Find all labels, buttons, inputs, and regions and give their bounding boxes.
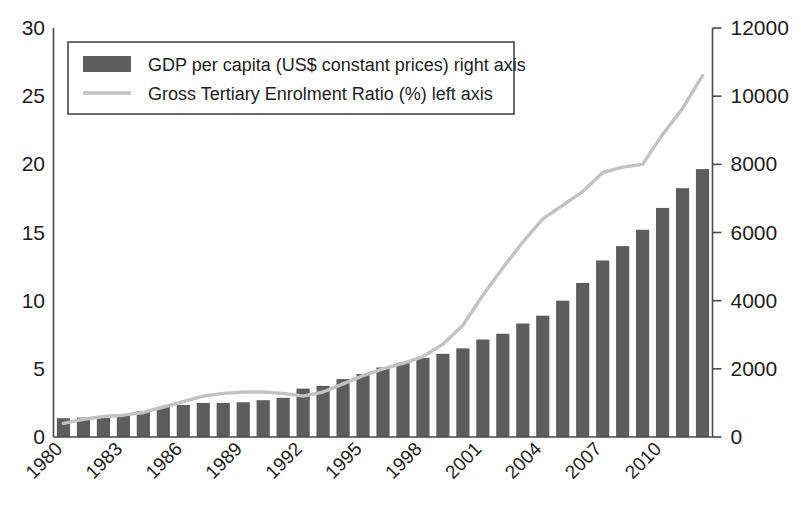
- bar-1984: [137, 411, 150, 437]
- y-right-tick-label-2000: 2000: [731, 357, 778, 380]
- bar-2005: [556, 301, 569, 437]
- bar-2006: [576, 283, 589, 437]
- legend-item-label-enrolment: Gross Tertiary Enrolment Ratio (%) left …: [148, 84, 493, 104]
- y-left-tick-label-10: 10: [22, 289, 45, 312]
- bar-1998: [416, 358, 429, 437]
- bar-1990: [257, 400, 270, 437]
- bar-1991: [277, 398, 290, 437]
- bar-2011: [676, 188, 689, 437]
- bar-1986: [177, 405, 190, 437]
- y-left-tick-label-15: 15: [22, 221, 45, 244]
- bar-2012: [696, 169, 709, 437]
- bar-1988: [217, 403, 230, 437]
- y-right-tick-label-4000: 4000: [731, 289, 778, 312]
- legend-bar-swatch-icon: [83, 56, 131, 72]
- chart-legend: GDP per capita (US$ constant prices) rig…: [68, 42, 526, 114]
- y-right-tick-label-10000: 10000: [731, 84, 789, 107]
- y-left-tick-label-30: 30: [22, 16, 45, 39]
- legend-item-label-gdp: GDP per capita (US$ constant prices) rig…: [148, 55, 526, 75]
- bar-1999: [436, 354, 449, 437]
- y-left-tick-label-25: 25: [22, 84, 45, 107]
- bar-2001: [476, 340, 489, 437]
- bar-1989: [237, 402, 250, 437]
- bar-2002: [496, 334, 509, 437]
- bar-2000: [456, 348, 469, 437]
- chart-canvas: 051015202530 020004000600080001000012000…: [0, 0, 801, 512]
- bar-1997: [396, 363, 409, 437]
- bar-1996: [376, 367, 389, 437]
- bar-2010: [656, 208, 669, 437]
- bar-1983: [117, 415, 130, 437]
- y-right-tick-label-0: 0: [731, 425, 743, 448]
- bar-1994: [336, 379, 349, 437]
- bar-1995: [356, 374, 369, 437]
- y-left-tick-label-5: 5: [33, 357, 45, 380]
- y-right-tick-label-8000: 8000: [731, 152, 778, 175]
- y-right-tick-label-12000: 12000: [731, 16, 789, 39]
- bar-1987: [197, 403, 210, 437]
- bar-2007: [596, 260, 609, 437]
- chart-figure: 051015202530 020004000600080001000012000…: [0, 0, 801, 512]
- bar-1982: [97, 417, 110, 437]
- bar-2004: [536, 316, 549, 437]
- y-left-tick-label-20: 20: [22, 152, 45, 175]
- bar-1985: [157, 407, 170, 437]
- bar-2003: [516, 324, 529, 438]
- bar-2009: [636, 230, 649, 437]
- y-left-tick-label-0: 0: [33, 425, 45, 448]
- bar-2008: [616, 246, 629, 437]
- y-right-tick-label-6000: 6000: [731, 221, 778, 244]
